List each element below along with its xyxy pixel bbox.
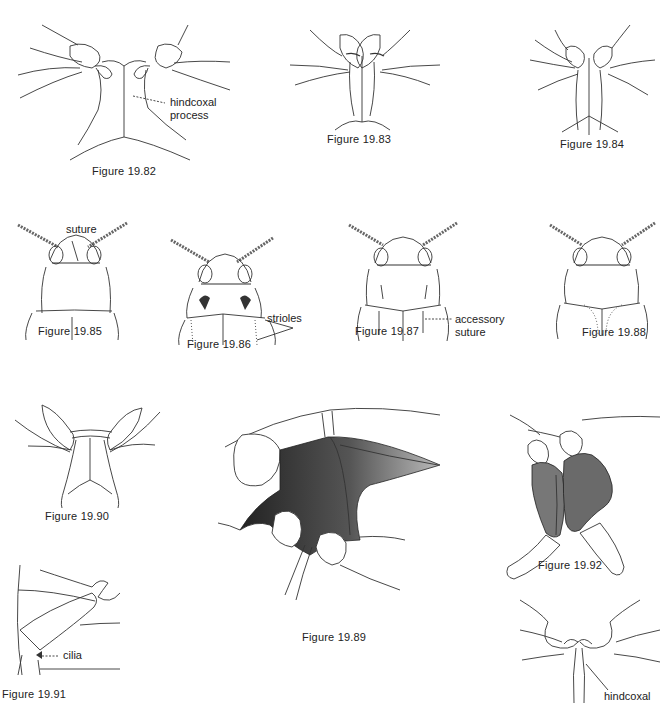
figure-caption: Figure 19.87 <box>355 325 419 337</box>
figure-caption: Figure 19.92 <box>538 559 602 571</box>
figure-19-91: cilia Figure 19.91 <box>0 565 220 703</box>
figure-19-84: Figure 19.84 <box>500 20 665 160</box>
hindcoxal-process-drawing <box>0 0 230 175</box>
lateral-thorax-shaded-drawing <box>210 395 500 655</box>
figure-caption: Figure 19.83 <box>327 133 391 145</box>
figure-19-82: hindcoxal process Figure 19.82 <box>0 0 230 175</box>
metasternum-drawing <box>0 390 220 520</box>
strioles-label: strioles <box>267 312 302 325</box>
suture-label: suture <box>66 223 97 236</box>
figure-caption: Figure 19.82 <box>92 165 156 177</box>
figure-caption: Figure 19.85 <box>38 325 102 337</box>
figure-19-87: accessory suture Figure 19.87 <box>345 215 525 355</box>
cilia-label: cilia <box>63 649 82 662</box>
figure-caption: Figure 19.91 <box>2 688 66 700</box>
figure-19-86: strioles Figure 19.86 <box>165 210 315 345</box>
hindcoxal-process-label-line2: process <box>170 109 216 122</box>
head-pronotum-drawing <box>0 205 120 340</box>
figure-19-93-partial: hindcoxal <box>520 580 665 703</box>
figure-caption: Figure 19.90 <box>45 510 109 522</box>
figure-19-88: Figure 19.88 <box>540 215 665 355</box>
figure-19-92: Figure 19.92 <box>500 395 665 590</box>
figure-19-85: suture Figure 19.85 <box>0 205 120 340</box>
hindcoxa-cilia-drawing <box>0 565 220 703</box>
hindcoxal-process-label: hindcoxal <box>170 96 216 109</box>
figure-19-83: Figure 19.83 <box>270 20 450 160</box>
accessory-suture-label: accessory <box>455 313 505 326</box>
figure-caption: Figure 19.84 <box>560 138 624 150</box>
figure-caption: Figure 19.86 <box>187 338 251 350</box>
hindcoxal-label: hindcoxal <box>604 690 650 703</box>
figure-caption: Figure 19.88 <box>582 326 646 338</box>
figure-19-89: Figure 19.89 <box>210 395 500 655</box>
accessory-suture-label-line2: suture <box>455 326 505 339</box>
figure-19-90: Figure 19.90 <box>0 390 220 520</box>
hindcoxal-process-drawing <box>520 580 665 703</box>
figure-caption: Figure 19.89 <box>302 631 366 643</box>
